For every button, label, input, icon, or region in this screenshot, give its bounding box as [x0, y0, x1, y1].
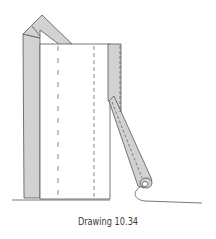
fabric-curl-baseline — [135, 187, 202, 203]
rolled-edge-tube — [109, 96, 152, 188]
diagram-shapes — [23, 15, 152, 199]
main-panel — [40, 44, 110, 199]
sewing-diagram — [0, 0, 216, 210]
figure-caption: Drawing 10.34 — [19, 216, 196, 227]
tube-end-inner — [142, 182, 148, 187]
left-folded-strip — [23, 34, 40, 198]
